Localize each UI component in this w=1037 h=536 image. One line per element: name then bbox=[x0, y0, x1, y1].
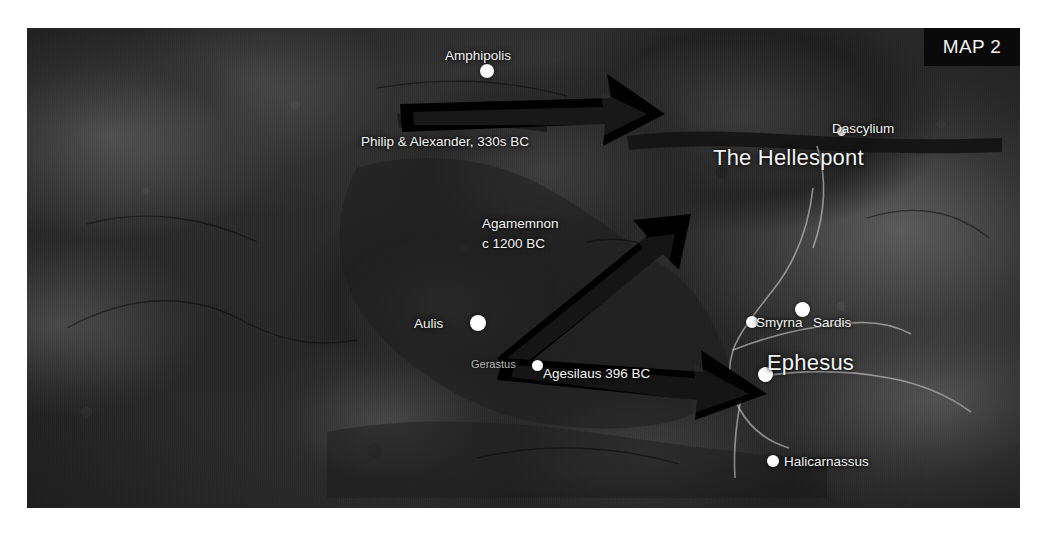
vignette bbox=[27, 28, 1020, 508]
map-number-plate: MAP 2 bbox=[924, 28, 1020, 66]
map-number-label: MAP 2 bbox=[943, 36, 1002, 58]
city-dot-gerastus bbox=[532, 360, 543, 371]
city-dot-ephesus bbox=[758, 367, 773, 382]
page-root: Amphipolis Dascylium Smyrna Sardis Ephes… bbox=[0, 0, 1037, 536]
city-dot-amphipolis bbox=[480, 64, 494, 78]
city-dot-smyrna bbox=[746, 316, 758, 328]
map-image: Amphipolis Dascylium Smyrna Sardis Ephes… bbox=[27, 28, 1020, 508]
city-dot-halicarnassus bbox=[767, 455, 779, 467]
city-dot-dascylium bbox=[837, 127, 846, 136]
city-dot-sardis bbox=[795, 302, 810, 317]
city-dot-aulis bbox=[470, 315, 486, 331]
